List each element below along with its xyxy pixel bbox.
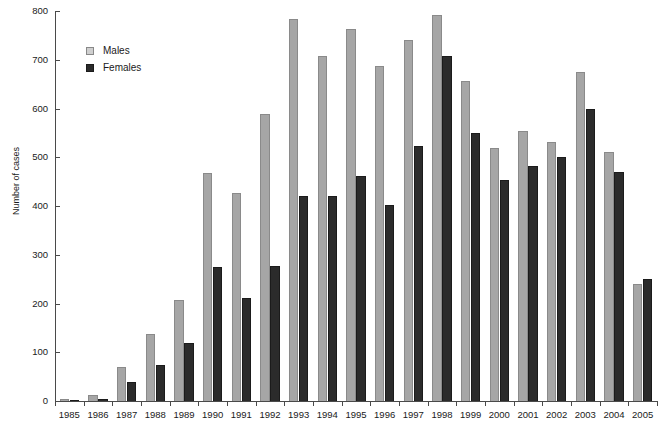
bar-males	[576, 72, 586, 401]
x-tick-label: 2005	[626, 410, 660, 420]
bar-females	[557, 157, 567, 401]
y-tick-label: 400	[0, 201, 48, 211]
bar-females	[328, 196, 338, 401]
bar-females	[242, 298, 252, 401]
x-tick	[485, 401, 486, 406]
bar-chart: 0100200300400500600700800 Number of case…	[0, 0, 666, 431]
x-tick	[370, 401, 371, 406]
bar-group	[490, 11, 510, 401]
legend-item-females: Females	[86, 59, 141, 76]
bar-females	[184, 343, 194, 401]
bar-males	[146, 334, 156, 401]
bar-females	[270, 266, 280, 401]
plot-area	[55, 11, 657, 401]
x-tick	[84, 401, 85, 406]
bar-group	[289, 11, 309, 401]
x-tick	[514, 401, 515, 406]
bar-males	[432, 15, 442, 401]
x-tick	[198, 401, 199, 406]
x-tick	[256, 401, 257, 406]
x-tick	[542, 401, 543, 406]
bar-group	[260, 11, 280, 401]
x-tick	[313, 401, 314, 406]
bar-group	[547, 11, 567, 401]
bar-group	[375, 11, 395, 401]
bar-group	[461, 11, 481, 401]
bar-group	[432, 11, 452, 401]
y-axis-title: Number of cases	[11, 121, 21, 241]
y-tick-label: 600	[0, 104, 48, 114]
bar-females	[156, 365, 166, 401]
bar-group	[404, 11, 424, 401]
bar-females	[614, 172, 624, 401]
bar-females	[643, 279, 653, 401]
bar-group	[146, 11, 166, 401]
bar-group	[318, 11, 338, 401]
bar-females	[213, 267, 223, 401]
y-tick-label: 800	[0, 6, 48, 16]
x-axis-line	[55, 401, 657, 402]
y-tick-label: 200	[0, 299, 48, 309]
bar-females	[471, 133, 481, 401]
y-tick-label: 300	[0, 250, 48, 260]
x-tick	[112, 401, 113, 406]
bar-group	[232, 11, 252, 401]
bar-females	[442, 56, 452, 401]
y-tick-label: 0	[0, 396, 48, 406]
y-tick-label: 100	[0, 347, 48, 357]
x-tick	[399, 401, 400, 406]
x-tick	[284, 401, 285, 406]
bar-group	[60, 11, 80, 401]
bar-group	[633, 11, 653, 401]
x-tick	[628, 401, 629, 406]
bar-females	[299, 196, 309, 401]
bar-males	[490, 148, 500, 401]
bar-males	[60, 399, 70, 401]
bar-males	[117, 367, 127, 401]
bar-males	[346, 29, 356, 401]
y-tick-label: 700	[0, 55, 48, 65]
bar-group	[604, 11, 624, 401]
bar-males	[203, 173, 213, 401]
x-tick	[600, 401, 601, 406]
chart-legend: Males Females	[86, 42, 141, 76]
x-tick	[657, 401, 658, 406]
legend-label-females: Females	[103, 63, 141, 73]
bar-males	[518, 131, 528, 401]
bar-females	[528, 166, 538, 401]
x-tick	[55, 401, 56, 406]
bar-females	[98, 399, 108, 401]
bar-females	[500, 180, 510, 401]
males-swatch-icon	[86, 47, 94, 55]
females-swatch-icon	[86, 64, 94, 72]
x-tick	[571, 401, 572, 406]
bar-males	[604, 152, 614, 401]
bar-females	[586, 109, 596, 401]
legend-label-males: Males	[103, 46, 130, 56]
bar-males	[633, 284, 643, 401]
bar-males	[232, 193, 242, 401]
bar-group	[576, 11, 596, 401]
bar-males	[547, 142, 557, 401]
bar-males	[318, 56, 328, 401]
bar-group	[518, 11, 538, 401]
bar-group	[203, 11, 223, 401]
y-tick-label: 500	[0, 152, 48, 162]
bar-females	[127, 382, 137, 401]
bar-females	[385, 205, 395, 401]
bar-males	[461, 81, 471, 401]
bar-females	[70, 400, 80, 401]
bar-males	[289, 19, 299, 401]
x-tick	[428, 401, 429, 406]
bar-males	[404, 40, 414, 401]
bar-females	[414, 146, 424, 401]
bar-females	[356, 176, 366, 401]
x-tick	[141, 401, 142, 406]
bar-males	[375, 66, 385, 401]
bar-males	[88, 395, 98, 401]
bar-males	[260, 114, 270, 401]
x-tick	[170, 401, 171, 406]
bar-males	[174, 300, 184, 401]
legend-item-males: Males	[86, 42, 141, 59]
bar-group	[346, 11, 366, 401]
